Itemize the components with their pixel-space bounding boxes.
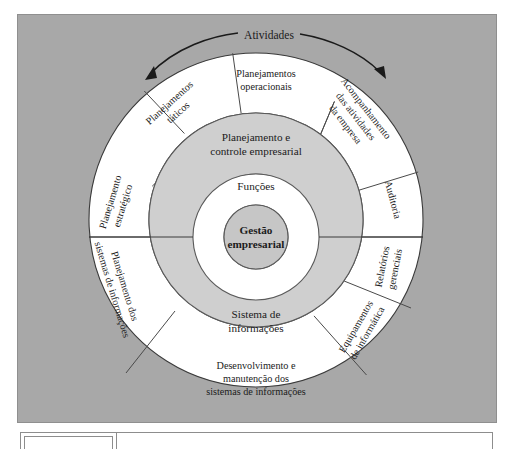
svg-text:Planejamentos: Planejamentos (236, 68, 295, 79)
svg-text:Planejamento e: Planejamento e (222, 131, 291, 143)
organizational-wheel-diagram: Atividades Planejamentos operacionais Pl… (0, 0, 513, 449)
svg-text:manutenção dos: manutenção dos (223, 373, 289, 384)
svg-text:controle empresarial: controle empresarial (210, 145, 302, 157)
svg-text:Sistema de: Sistema de (232, 308, 281, 320)
caption-table (21, 433, 493, 449)
svg-text:Desenvolvimento e: Desenvolvimento e (217, 360, 296, 371)
atividades-label: Atividades (244, 29, 294, 41)
svg-text:empresarial: empresarial (228, 238, 285, 250)
svg-text:informações: informações (228, 322, 283, 334)
svg-text:Gestão: Gestão (240, 224, 273, 236)
svg-text:operacionais: operacionais (240, 81, 292, 92)
svg-text:sistemas de informações: sistemas de informações (206, 386, 306, 397)
funcoes-label: Funções (237, 180, 274, 192)
figure-root: Atividades Planejamentos operacionais Pl… (0, 0, 513, 449)
